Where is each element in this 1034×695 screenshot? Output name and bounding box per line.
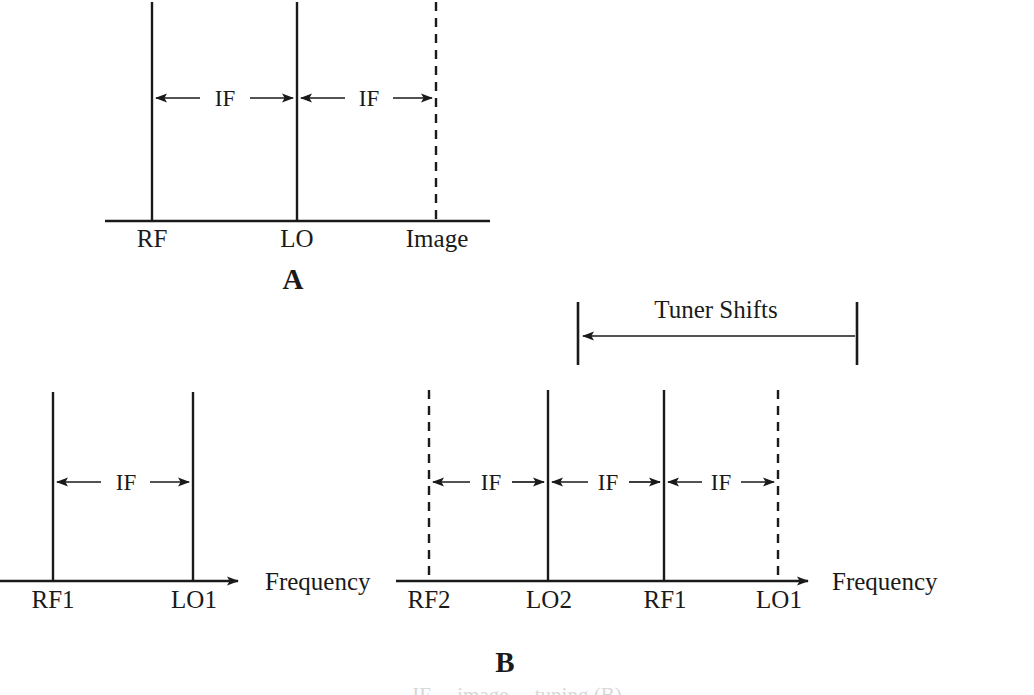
panel-a-span-if-2-label: IF: [359, 86, 379, 111]
panel-b-left-label-lo1: LO1: [171, 586, 217, 613]
panel-b-right-span-if-3-label: IF: [711, 470, 731, 495]
panel-b-right-axis-title: Frequency: [832, 568, 938, 595]
panel-b-letter: B: [495, 646, 514, 678]
panel-a-span-if-2: IF: [301, 86, 432, 111]
tuner-shifts-label: Tuner Shifts: [654, 296, 777, 323]
panel-b-left: IF RF1 LO1 Frequency: [0, 392, 371, 613]
panel-b-right-label-lo1: LO1: [756, 586, 802, 613]
panel-b-right-label-rf1: RF1: [643, 586, 686, 613]
panel-b-right-label-rf2: RF2: [407, 586, 450, 613]
panel-b-left-span-if: IF: [57, 470, 189, 495]
panel-b-right-span-if-1: IF: [433, 470, 544, 495]
panel-b-right-tuner-bracket: Tuner Shifts: [578, 296, 857, 365]
panel-b-left-span-if-label: IF: [116, 470, 136, 495]
panel-b-right-span-if-1-label: IF: [481, 470, 501, 495]
figure-root: IF IF RF LO Image A: [0, 0, 1034, 695]
panel-a: IF IF RF LO Image A: [105, 2, 490, 295]
panel-b-right: Tuner Shifts IF IF: [396, 296, 938, 613]
frequency-diagram: IF IF RF LO Image A: [0, 0, 1034, 695]
panel-a-label-image: Image: [406, 225, 468, 252]
panel-b-left-label-rf1: RF1: [31, 586, 74, 613]
panel-a-letter: A: [283, 263, 304, 295]
panel-b-left-axis-title: Frequency: [265, 568, 371, 595]
panel-b-right-span-if-2: IF: [552, 470, 660, 495]
panel-b-right-span-if-2-label: IF: [598, 470, 618, 495]
panel-a-span-if-1-label: IF: [215, 86, 235, 111]
panel-a-span-if-1: IF: [156, 86, 293, 111]
panel-a-label-rf: RF: [137, 225, 168, 252]
panel-a-label-lo: LO: [280, 225, 313, 252]
panel-b-right-label-lo2: LO2: [526, 586, 572, 613]
panel-b-right-span-if-3: IF: [668, 470, 774, 495]
